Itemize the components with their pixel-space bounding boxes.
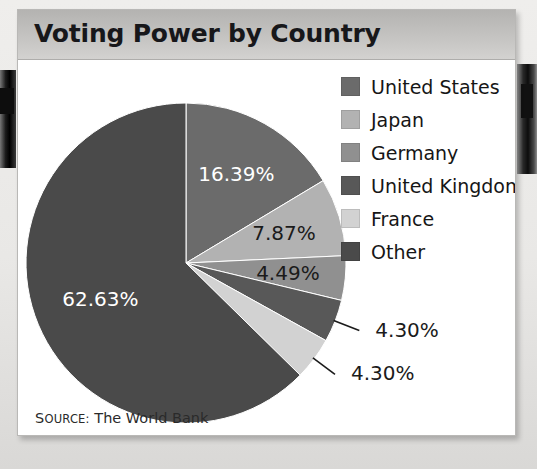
source-label: SOURCE: — [35, 412, 90, 426]
pie-slice-value-label: 4.49% — [256, 261, 320, 285]
chart-card: Voting Power by Country 16.39%7.87%4.49%… — [17, 9, 516, 436]
legend-item-label: France — [371, 208, 434, 230]
binder-clip-left-artifact — [0, 70, 16, 168]
legend-swatch-icon — [341, 209, 360, 228]
legend-item[interactable]: Japan — [341, 103, 516, 136]
source-text: The World Bank — [94, 410, 208, 426]
pie-slice-value-label: 16.39% — [198, 162, 274, 186]
legend-item[interactable]: United Kingdom — [341, 169, 516, 202]
leader-line — [334, 320, 360, 330]
source-note: SOURCE: The World Bank — [35, 410, 208, 426]
leader-line — [313, 358, 335, 375]
legend-item-label: Other — [371, 241, 425, 263]
legend-swatch-icon — [341, 77, 360, 96]
legend-swatch-icon — [341, 242, 360, 261]
page-title: Voting Power by Country — [34, 19, 381, 48]
legend-item-label: Japan — [371, 109, 424, 131]
legend-swatch-icon — [341, 176, 360, 195]
legend-item[interactable]: Other — [341, 235, 516, 268]
legend-item[interactable]: United States — [341, 70, 516, 103]
legend-item-label: United Kingdom — [371, 175, 516, 197]
legend-item-label: Germany — [371, 142, 458, 164]
legend-swatch-icon — [341, 143, 360, 162]
title-band: Voting Power by Country — [18, 10, 515, 60]
chart-plot-area: 16.39%7.87%4.49%4.30%4.30%62.63% United … — [18, 59, 515, 435]
legend-item-label: United States — [371, 76, 500, 98]
pie-slice-value-label: 7.87% — [252, 221, 316, 245]
binder-clip-right-artifact — [517, 64, 537, 174]
pie-slice-value-label: 4.30% — [351, 361, 415, 385]
legend-item[interactable]: Germany — [341, 136, 516, 169]
pie-slice-value-label: 4.30% — [375, 318, 439, 342]
legend-swatch-icon — [341, 110, 360, 129]
legend-item[interactable]: France — [341, 202, 516, 235]
pie-slice-value-label: 62.63% — [62, 287, 138, 311]
chart-legend: United StatesJapanGermanyUnited KingdomF… — [341, 70, 516, 268]
